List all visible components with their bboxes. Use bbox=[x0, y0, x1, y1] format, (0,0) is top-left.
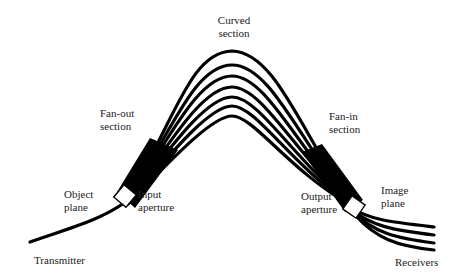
label-receivers: Receivers bbox=[395, 256, 438, 269]
label-fan-out-section: Fan-out section bbox=[100, 107, 134, 133]
label-object-plane: Object plane bbox=[64, 188, 93, 214]
curved-fibers bbox=[128, 51, 352, 206]
label-transmitter: Transmitter bbox=[34, 254, 85, 267]
fiber-diagram bbox=[0, 0, 461, 280]
label-fan-in-section: Fan-in section bbox=[329, 110, 360, 136]
label-image-plane: Image plane bbox=[381, 184, 408, 210]
receiver-fibers bbox=[350, 207, 434, 250]
label-input-aperture: Input aperture bbox=[138, 188, 174, 214]
label-curved-section: Curved section bbox=[210, 14, 258, 40]
label-output-aperture: Output aperture bbox=[301, 190, 337, 216]
